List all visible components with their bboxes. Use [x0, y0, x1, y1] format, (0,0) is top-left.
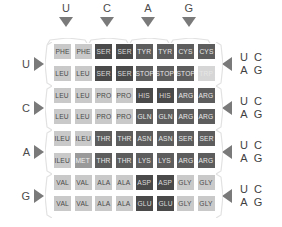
codon-cell: ALA [94, 195, 113, 212]
amino-acid-label: GLU [137, 200, 151, 207]
first-base-label: C [87, 2, 127, 15]
triangle-down-icon [59, 17, 73, 27]
amino-acid-label: SER [199, 135, 213, 142]
codon-cell: VAL [74, 174, 93, 191]
amino-acid-label: PRO [96, 92, 111, 99]
third-base-lower-right: G [251, 196, 265, 209]
amino-acid-label: STOP [176, 70, 195, 77]
codon-cell: ASN [156, 130, 175, 147]
codon-cell: SER [94, 43, 113, 60]
amino-acid-label: PRO [117, 92, 132, 99]
triangle-right-icon [34, 189, 44, 203]
amino-acid-label: PHE [76, 48, 90, 55]
third-base-pairs: UCAG [237, 183, 265, 209]
codon-cell: HIS [156, 87, 175, 104]
triangle-left-icon [222, 101, 232, 115]
amino-acid-label: SER [117, 48, 131, 55]
row-brace-icon [45, 42, 52, 86]
third-base-pairs: UCAG [237, 95, 265, 121]
codon-cell: STOP [176, 65, 195, 82]
codon-cell: ILEU [53, 152, 72, 169]
second-base-label: U [22, 58, 30, 70]
triangle-down-icon [100, 17, 114, 27]
third-base-lower-right: G [251, 152, 265, 165]
third-base-lower-right: G [251, 108, 265, 121]
first-base-label: G [169, 2, 209, 15]
codon-cell: VAL [53, 174, 72, 191]
amino-acid-label: PRO [96, 113, 111, 120]
codon-cell: PHE [74, 43, 93, 60]
row-brace-icon [45, 86, 52, 130]
amino-acid-label: THR [117, 135, 131, 142]
amino-acid-label: LEU [76, 113, 90, 120]
amino-acid-label: HIS [159, 92, 171, 99]
codon-cell: ILEU [74, 130, 93, 147]
codon-cell: ARG [176, 108, 195, 125]
amino-acid-label: GLY [199, 179, 212, 186]
codon-cell: ARG [176, 152, 195, 169]
codon-cell: LEU [53, 65, 72, 82]
codon-cell: ARG [176, 87, 195, 104]
codon-cell: MET [74, 152, 93, 169]
codon-cell: PRO [115, 87, 134, 104]
amino-acid-label: LEU [56, 70, 70, 77]
codon-cell: SER [115, 65, 134, 82]
row-brace-icon [45, 174, 52, 218]
codon-cell: THR [115, 130, 134, 147]
amino-acid-label: THR [96, 135, 110, 142]
triangle-left-icon [222, 189, 232, 203]
codon-cell: PRO [94, 87, 113, 104]
codon-cell: PHE [53, 43, 72, 60]
amino-acid-label: LEU [76, 70, 90, 77]
third-base-pairs: UCAG [237, 51, 265, 77]
amino-acid-label: VAL [77, 200, 90, 207]
second-base-axis: UCAG [4, 42, 44, 220]
amino-acid-label: ARG [178, 157, 193, 164]
amino-acid-label: VAL [56, 179, 69, 186]
triangle-left-icon [222, 145, 232, 159]
codon-cell: GLU [135, 195, 154, 212]
amino-acid-label: GLN [137, 113, 151, 120]
genetic-code-table: UCAG UCAG UCAGUCAGUCAGUCAG PHEPHESERSERT… [0, 0, 282, 227]
codon-cell: THR [94, 152, 113, 169]
codon-cell: GLY [176, 174, 195, 191]
triangle-right-icon [34, 145, 44, 159]
codon-cell: THR [94, 130, 113, 147]
amino-acid-label: ASP [138, 179, 152, 186]
third-base-lower-left: A [237, 152, 251, 165]
codon-cell: ARG [197, 87, 216, 104]
codon-cell: GLU [156, 195, 175, 212]
codon-cell: ARG [197, 108, 216, 125]
amino-acid-label: THR [96, 157, 110, 164]
amino-acid-label: ILEU [55, 157, 71, 164]
codon-cell: GLN [135, 108, 154, 125]
amino-acid-label: TRP [199, 70, 213, 77]
codon-cell: SER [176, 130, 195, 147]
third-base-lower-left: A [237, 108, 251, 121]
codon-cell: LEU [74, 65, 93, 82]
codon-cell: STOP [135, 65, 154, 82]
third-base-group: UCAG [222, 130, 280, 174]
amino-acid-label: ALA [97, 200, 110, 207]
second-base-a: A [4, 130, 44, 174]
row-brace-icon [216, 174, 223, 218]
codon-cell: TRP [197, 65, 216, 82]
first-base-a: A [128, 2, 168, 27]
second-base-u: U [4, 42, 44, 86]
amino-acid-label: LYS [138, 157, 151, 164]
row-brace-icon [216, 130, 223, 174]
row-brace-icon [216, 86, 223, 130]
codon-cell: TYR [135, 43, 154, 60]
first-base-g: G [169, 2, 209, 27]
amino-acid-label: STOP [135, 70, 154, 77]
codon-cell: SER [197, 130, 216, 147]
amino-acid-cells: PHEPHESERSERTYRTYRCYSCYSLEULEUSERSERSTOP… [53, 43, 217, 219]
amino-acid-label: SER [117, 70, 131, 77]
triangle-left-icon [222, 57, 232, 71]
first-base-label: A [128, 2, 168, 15]
second-base-label: A [23, 146, 30, 158]
amino-acid-label: ARG [178, 92, 193, 99]
codon-cell: LYS [156, 152, 175, 169]
amino-acid-label: SER [96, 48, 110, 55]
codon-cell: STOP [156, 65, 175, 82]
